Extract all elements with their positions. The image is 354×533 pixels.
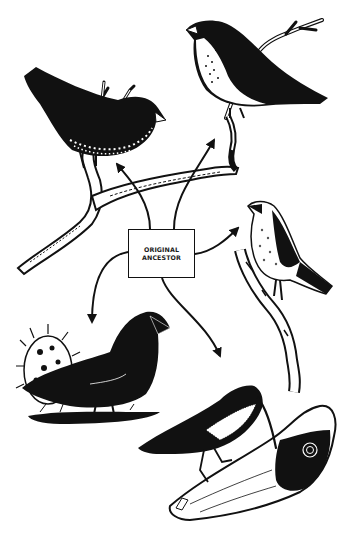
arrow-to-bottom-left [92, 252, 128, 322]
arrow-to-top-right [174, 140, 214, 229]
arrow-to-bottom-right [162, 278, 220, 356]
node-label-line1: ORIGINAL [144, 246, 179, 254]
original-ancestor-node: ORIGINAL ANCESTOR [128, 229, 195, 278]
bird-top-left [24, 67, 166, 168]
arrow-to-right [195, 228, 238, 254]
bird-top-right [186, 20, 328, 118]
node-label-line2: ANCESTOR [142, 254, 181, 262]
